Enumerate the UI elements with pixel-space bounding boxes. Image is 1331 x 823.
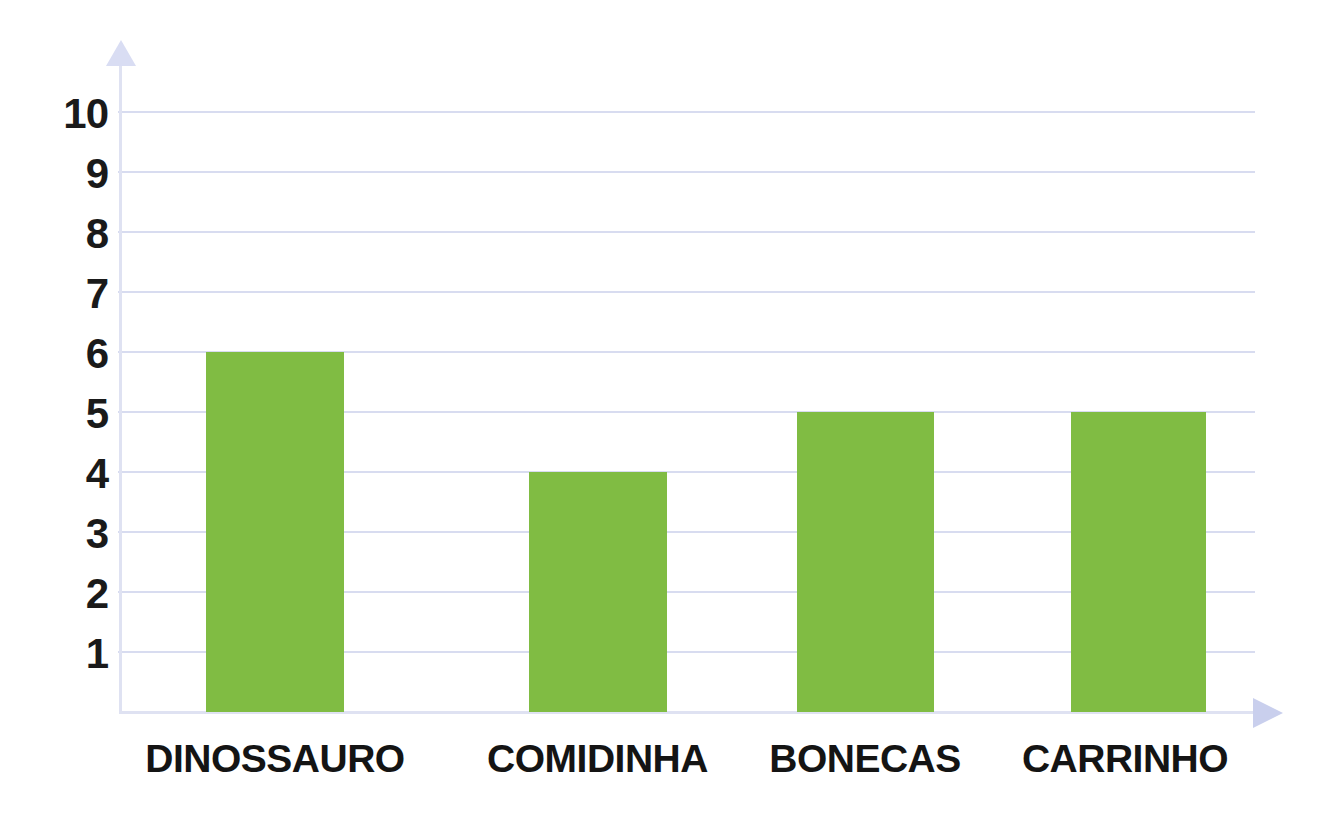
y-tick-label-1: 1 (0, 633, 108, 675)
category-label-carrinho: CARRINHO (1000, 736, 1250, 782)
bar-carrinho[interactable] (1071, 412, 1206, 712)
plot-area: 10 9 8 7 6 5 4 3 2 1 (0, 0, 1331, 823)
y-tick-label-5: 5 (0, 393, 108, 435)
y-tick-label-7: 7 (0, 273, 108, 315)
category-label-dinossauro: DINOSSAURO (135, 736, 415, 782)
y-tick-label-3: 3 (0, 513, 108, 555)
y-tick-label-9: 9 (0, 153, 108, 195)
gridline-9 (118, 171, 1255, 173)
gridline-10 (118, 111, 1255, 113)
gridline-8 (118, 231, 1255, 233)
y-tick-9-wrap: 9 (0, 153, 108, 195)
y-tick-label-10: 10 (0, 93, 108, 135)
y-tick-label-4: 4 (0, 453, 108, 495)
y-tick-8-wrap: 8 (0, 213, 108, 255)
bar-dinossauro[interactable] (206, 352, 344, 712)
y-tick-10-wrap: 10 (0, 93, 108, 135)
y-tick-4-wrap: 4 (0, 453, 108, 495)
y-tick-6-wrap: 6 (0, 333, 108, 375)
y-axis-arrow-up-icon (106, 40, 136, 66)
gridline-7 (118, 291, 1255, 293)
y-tick-1-wrap: 1 (0, 633, 108, 675)
y-tick-label-6: 6 (0, 333, 108, 375)
y-tick-label-2: 2 (0, 573, 108, 615)
y-tick-3-wrap: 3 (0, 513, 108, 555)
bar-comidinha[interactable] (529, 472, 667, 712)
y-tick-label-8: 8 (0, 213, 108, 255)
x-axis-arrow-right-icon (1253, 698, 1283, 728)
y-tick-5-wrap: 5 (0, 393, 108, 435)
y-tick-7-wrap: 7 (0, 273, 108, 315)
y-axis-line (119, 62, 122, 714)
category-label-bonecas: BONECAS (745, 736, 985, 782)
y-tick-2-wrap: 2 (0, 573, 108, 615)
bar-chart: 10 9 8 7 6 5 4 3 2 1 (0, 0, 1331, 823)
category-label-comidinha: COMIDINHA (460, 736, 735, 782)
bar-bonecas[interactable] (797, 412, 934, 712)
